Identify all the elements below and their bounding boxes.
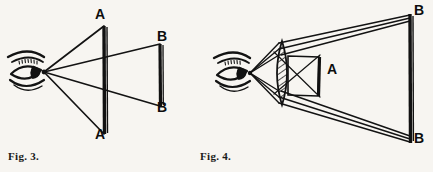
label-a-top-fig3: A: [95, 6, 105, 22]
convex-lens: [277, 41, 287, 105]
eye-icon: [214, 53, 250, 92]
label-b-bottom-fig4: B: [414, 130, 424, 146]
refracted-rays-fig4: [279, 15, 410, 142]
eye-icon: [8, 52, 44, 91]
eye-node-fig4: [248, 71, 252, 75]
figure-4-group: [214, 14, 413, 143]
sight-rays-fig3: [44, 26, 160, 134]
eye-node-fig3: [42, 70, 47, 75]
virtual-image-b: [410, 14, 413, 143]
label-a-bottom-fig3: A: [95, 126, 105, 142]
label-b-top-fig3: B: [157, 28, 167, 44]
label-b-top-fig4: B: [414, 2, 424, 18]
figure-plate: A A B B A B B Fig. 3. Fig. 4.: [0, 0, 433, 172]
label-a-fig4: A: [327, 61, 337, 77]
object-b-far: [160, 44, 163, 106]
object-a-near: [104, 26, 108, 134]
label-b-bottom-fig3: B: [157, 99, 167, 115]
figure-3-caption: Fig. 3.: [8, 150, 39, 162]
optics-diagram-svg: [0, 0, 433, 172]
figure-4-caption: Fig. 4.: [200, 150, 231, 162]
object-a-small: [288, 56, 320, 96]
figure-3-group: [8, 26, 163, 134]
